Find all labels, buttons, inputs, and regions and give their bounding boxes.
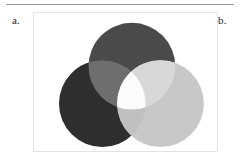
figure-frame [33,12,218,152]
venn-diagram [34,13,217,151]
panel-label-b: b. [218,15,227,26]
top-divider-rule [6,4,234,5]
figure-page: a. b. [0,0,240,164]
panel-label-a: a. [12,15,20,26]
